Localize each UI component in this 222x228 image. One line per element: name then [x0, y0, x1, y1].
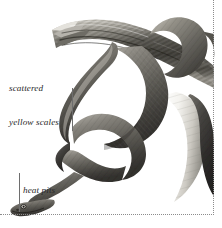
figure-page: scattered yellow scales heat pits [0, 0, 222, 228]
annotation-scattered-yellow-scales: scattered yellow scales [9, 60, 59, 151]
dotted-horizontal-rule [0, 214, 214, 215]
annotation-line-1: heat pits [23, 185, 55, 196]
dotted-vertical-rule [213, 0, 214, 215]
leader-line-scattered-yellow-scales [72, 88, 73, 131]
annotation-line-1: scattered [9, 83, 59, 94]
annotation-line-2: yellow scales [9, 117, 59, 128]
annotation-heat-pits: heat pits [23, 162, 55, 219]
leader-line-heat-pits [19, 173, 20, 212]
